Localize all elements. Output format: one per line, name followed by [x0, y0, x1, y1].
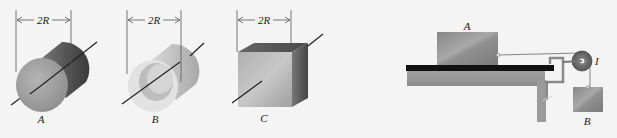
table-leg — [537, 80, 546, 122]
table-top — [406, 65, 554, 71]
dimension-label: 2R — [37, 14, 50, 26]
object-label: A — [37, 113, 45, 125]
string — [498, 53, 580, 55]
dimension-label: 2R — [148, 14, 161, 26]
hollow-cylinder-b: 2R B — [122, 10, 204, 125]
object-label: C — [260, 112, 268, 124]
cube-c: 2R C — [232, 10, 323, 124]
pulley-system: A I B — [406, 20, 603, 127]
object-label: B — [152, 113, 159, 125]
block-a-label: A — [463, 20, 471, 32]
physics-figure: 2R A 2R B 2R C — [0, 0, 617, 138]
pulley-label: I — [594, 55, 600, 67]
solid-cylinder-a: 2R A — [11, 10, 97, 125]
dimension-label: 2R — [258, 14, 271, 26]
table — [407, 71, 545, 86]
block-b-label: B — [584, 115, 591, 127]
block-b — [573, 87, 603, 112]
block-a — [437, 32, 498, 65]
